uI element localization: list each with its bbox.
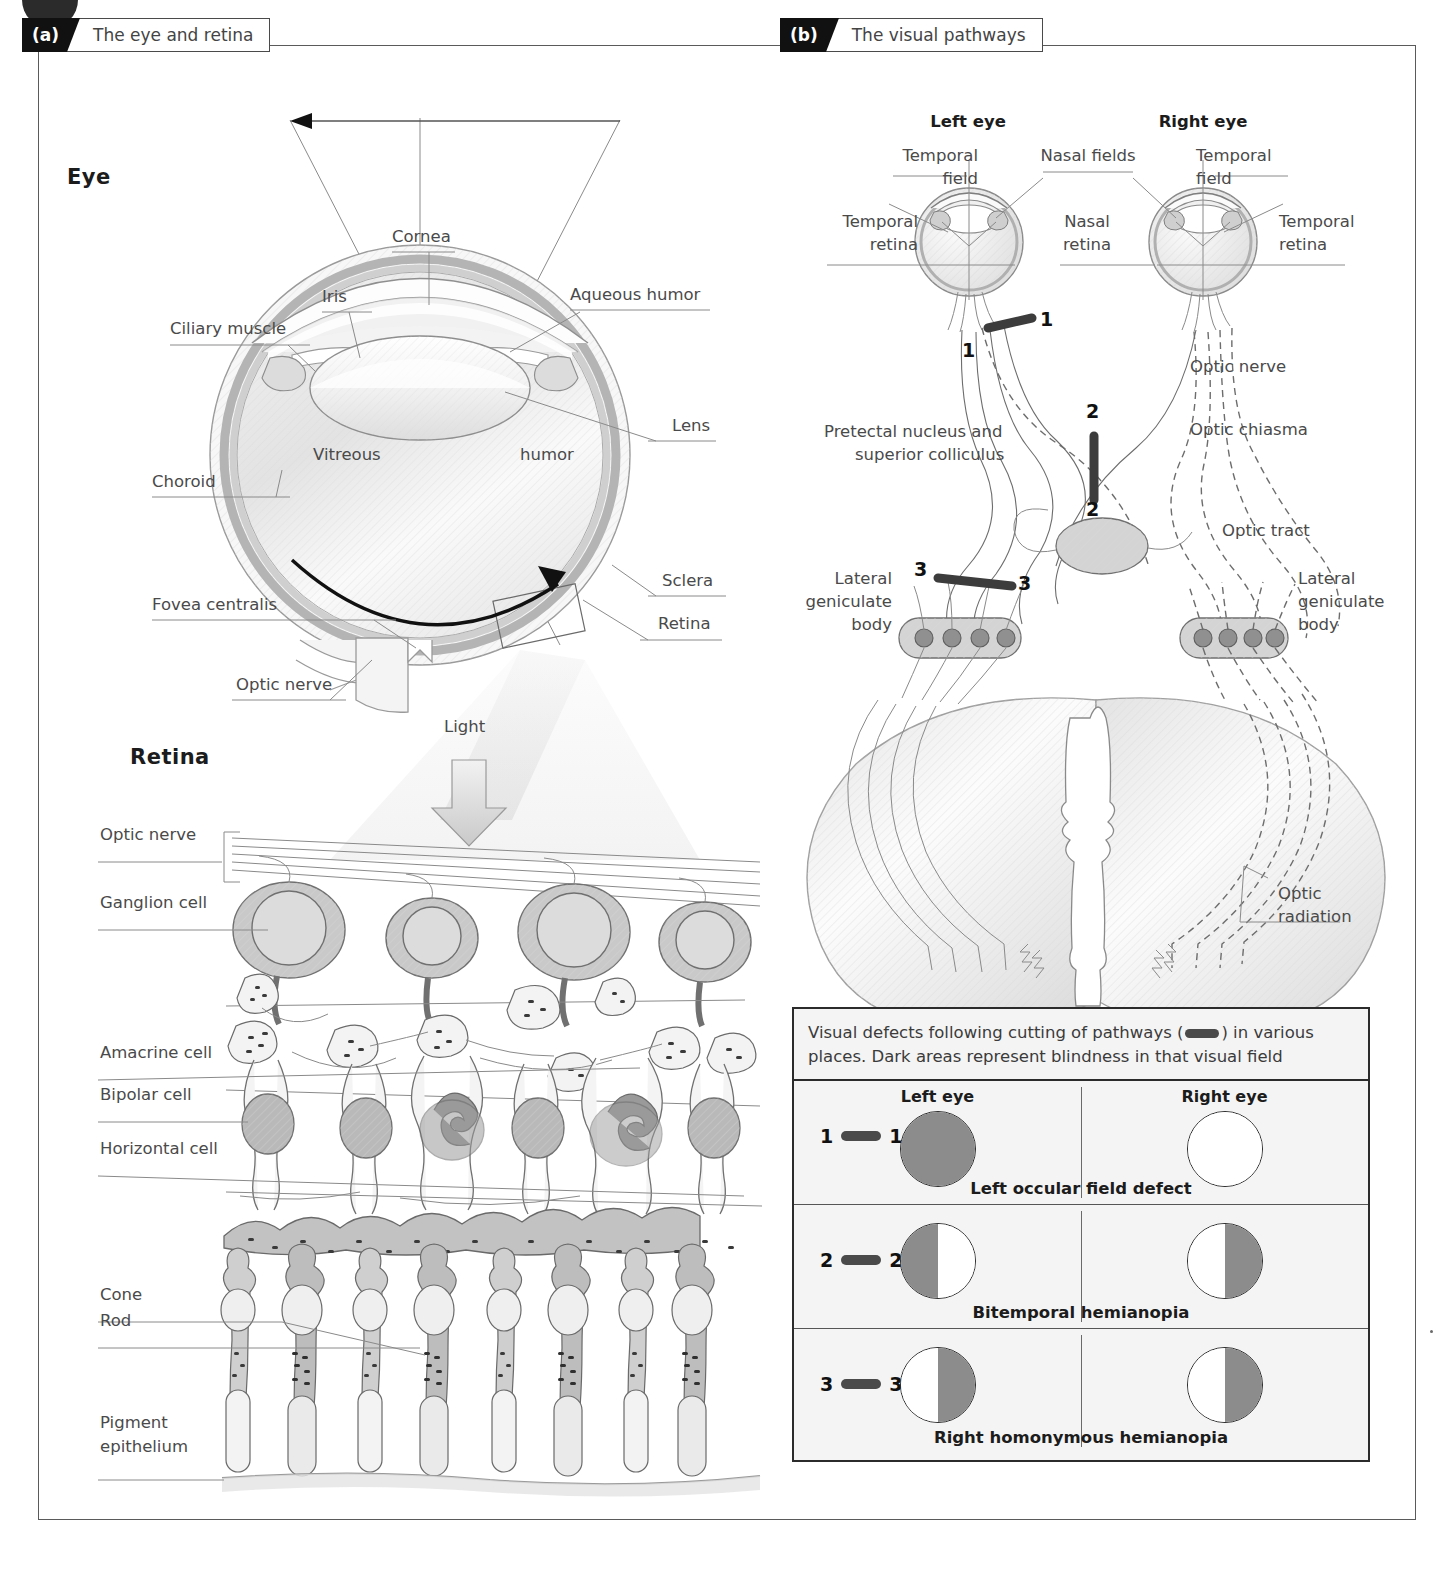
label-ganglion-cell: Ganglion cell xyxy=(100,894,207,913)
defect-name: Right homonymous hemianopia xyxy=(794,1428,1368,1447)
label-temporal-retina-left-l2: retina xyxy=(806,236,918,255)
defect-name: Bitemporal hemianopia xyxy=(794,1303,1368,1322)
label-cornea: Cornea xyxy=(392,228,451,247)
label-vitreous: Vitreous xyxy=(313,446,381,465)
label-lgb-left-l3: body xyxy=(808,616,892,635)
label-temporal-retina-right-l1: Temporal xyxy=(1279,213,1355,232)
retina-section-heading: Retina xyxy=(130,745,210,769)
label-temporal-field-right-l1: Temporal xyxy=(1196,147,1272,166)
label-lgb-left-l2: geniculate xyxy=(790,593,892,612)
brain-cortex xyxy=(807,694,1385,1030)
label-rod: Rod xyxy=(100,1312,131,1331)
label-optic-nerve-eye: Optic nerve xyxy=(236,676,332,695)
label-nasal-fields: Nasal fields xyxy=(1032,147,1144,166)
label-nasal-retina-l1: Nasal xyxy=(1042,213,1132,232)
cut-number-3-left: 3 xyxy=(914,558,927,580)
label-optic-radiation-l1: Optic xyxy=(1278,885,1322,904)
visual-field-disc-left xyxy=(900,1347,976,1423)
label-lgb-left-l1: Lateral xyxy=(808,570,892,589)
defect-left-eye-col xyxy=(794,1343,1081,1423)
cut-number-1-right: 1 xyxy=(1040,308,1053,330)
legend-caption: Visual defects following cutting of path… xyxy=(794,1009,1368,1081)
label-temporal-field-right-l2: field xyxy=(1196,170,1232,189)
label-ciliary-muscle: Ciliary muscle xyxy=(170,320,286,339)
label-optic-tract: Optic tract xyxy=(1222,522,1310,541)
label-temporal-retina-left-l1: Temporal xyxy=(806,213,918,232)
label-temporal-field-left-l2: field xyxy=(868,170,978,189)
photoreceptor-row xyxy=(221,1244,714,1476)
label-optic-nerve-pathway: Optic nerve xyxy=(1190,358,1286,377)
visual-field-disc-right xyxy=(1187,1347,1263,1423)
defect-right-eye-col xyxy=(1081,1219,1368,1299)
label-choroid: Choroid xyxy=(152,473,216,492)
defect-row: 3 3 Right homonymous hemianopia xyxy=(794,1329,1368,1453)
visual-field-disc-right xyxy=(1187,1111,1263,1187)
cut-number-1-left: 1 xyxy=(962,339,975,361)
cut-marker-3 xyxy=(938,578,1012,586)
label-pretectal-l2: superior colliculus xyxy=(855,446,1004,465)
defect-eye-columns: Left eye Right eye xyxy=(794,1087,1368,1187)
label-right-eye-pathway: Right eye xyxy=(1143,113,1263,132)
label-optic-chiasma: Optic chiasma xyxy=(1190,421,1308,440)
label-temporal-retina-right-l2: retina xyxy=(1279,236,1327,255)
eyeball-drawing xyxy=(210,245,630,712)
defect-col-header-left: Left eye xyxy=(901,1087,974,1107)
defect-right-eye-col xyxy=(1081,1343,1368,1423)
cut-number-2-top: 2 xyxy=(1086,400,1099,422)
amacrine-cell-layer xyxy=(226,974,756,1091)
defect-eye-columns xyxy=(794,1219,1368,1299)
cut-number-3-right: 3 xyxy=(1018,572,1031,594)
label-pigment-epithelium-line2: epithelium xyxy=(100,1438,188,1457)
cut-symbol-icon xyxy=(1185,1029,1219,1038)
defect-right-eye-col: Right eye xyxy=(1081,1087,1368,1187)
cut-marker-1 xyxy=(988,318,1032,328)
label-lgb-right-l1: Lateral xyxy=(1298,570,1355,589)
label-cone: Cone xyxy=(100,1286,142,1305)
label-humor: humor xyxy=(520,446,574,465)
defect-name: Left occular field defect xyxy=(794,1179,1368,1198)
label-fovea-centralis: Fovea centralis xyxy=(152,596,277,615)
pretectal-nucleus xyxy=(1014,509,1192,574)
label-lgb-right-l3: body xyxy=(1298,616,1339,635)
label-amacrine-cell: Amacrine cell xyxy=(100,1044,212,1063)
label-bipolar-cell: Bipolar cell xyxy=(100,1086,192,1105)
visual-defect-legend: Visual defects following cutting of path… xyxy=(792,1007,1370,1462)
defect-row: 2 2 Bitemporal hemianopia xyxy=(794,1205,1368,1329)
figure-page: (a) The eye and retina (b) The visual pa… xyxy=(0,0,1456,1590)
optic-pathway-solid xyxy=(947,326,1196,646)
label-left-eye-pathway: Left eye xyxy=(908,113,1028,132)
label-horizontal-cell: Horizontal cell xyxy=(100,1140,218,1159)
label-optic-radiation-l2: radiation xyxy=(1278,908,1352,927)
label-pretectal-l1: Pretectal nucleus and xyxy=(824,423,1002,442)
label-lens: Lens xyxy=(672,417,710,436)
visual-field-disc-left xyxy=(900,1223,976,1299)
label-lgb-right-l2: geniculate xyxy=(1298,593,1385,612)
label-temporal-field-left-l1: Temporal xyxy=(868,147,978,166)
cut-number-2-bottom: 2 xyxy=(1086,498,1099,520)
label-aqueous-humor: Aqueous humor xyxy=(570,286,700,305)
lgb-left xyxy=(899,582,1024,704)
visual-field-disc-right xyxy=(1187,1223,1263,1299)
bipolar-cell-row xyxy=(242,1056,740,1214)
label-optic-nerve-retina: Optic nerve xyxy=(100,826,196,845)
label-retina: Retina xyxy=(658,615,711,634)
label-sclera: Sclera xyxy=(662,572,713,591)
retina-cell-diagram xyxy=(98,832,762,1497)
defect-left-eye-col xyxy=(794,1219,1081,1299)
label-light: Light xyxy=(444,718,485,737)
label-pigment-epithelium-line1: Pigment xyxy=(100,1414,168,1433)
legend-caption-part1: Visual defects following cutting of path… xyxy=(808,1023,1183,1042)
defect-col-header-right: Right eye xyxy=(1182,1087,1268,1107)
visual-field-disc-left xyxy=(900,1111,976,1187)
label-iris: Iris xyxy=(322,288,347,307)
defect-row: 1 1 Left eye Right eye Left oc xyxy=(794,1081,1368,1205)
defect-left-eye-col: Left eye xyxy=(794,1087,1081,1187)
defect-eye-columns xyxy=(794,1343,1368,1423)
label-nasal-retina-l2: retina xyxy=(1042,236,1132,255)
